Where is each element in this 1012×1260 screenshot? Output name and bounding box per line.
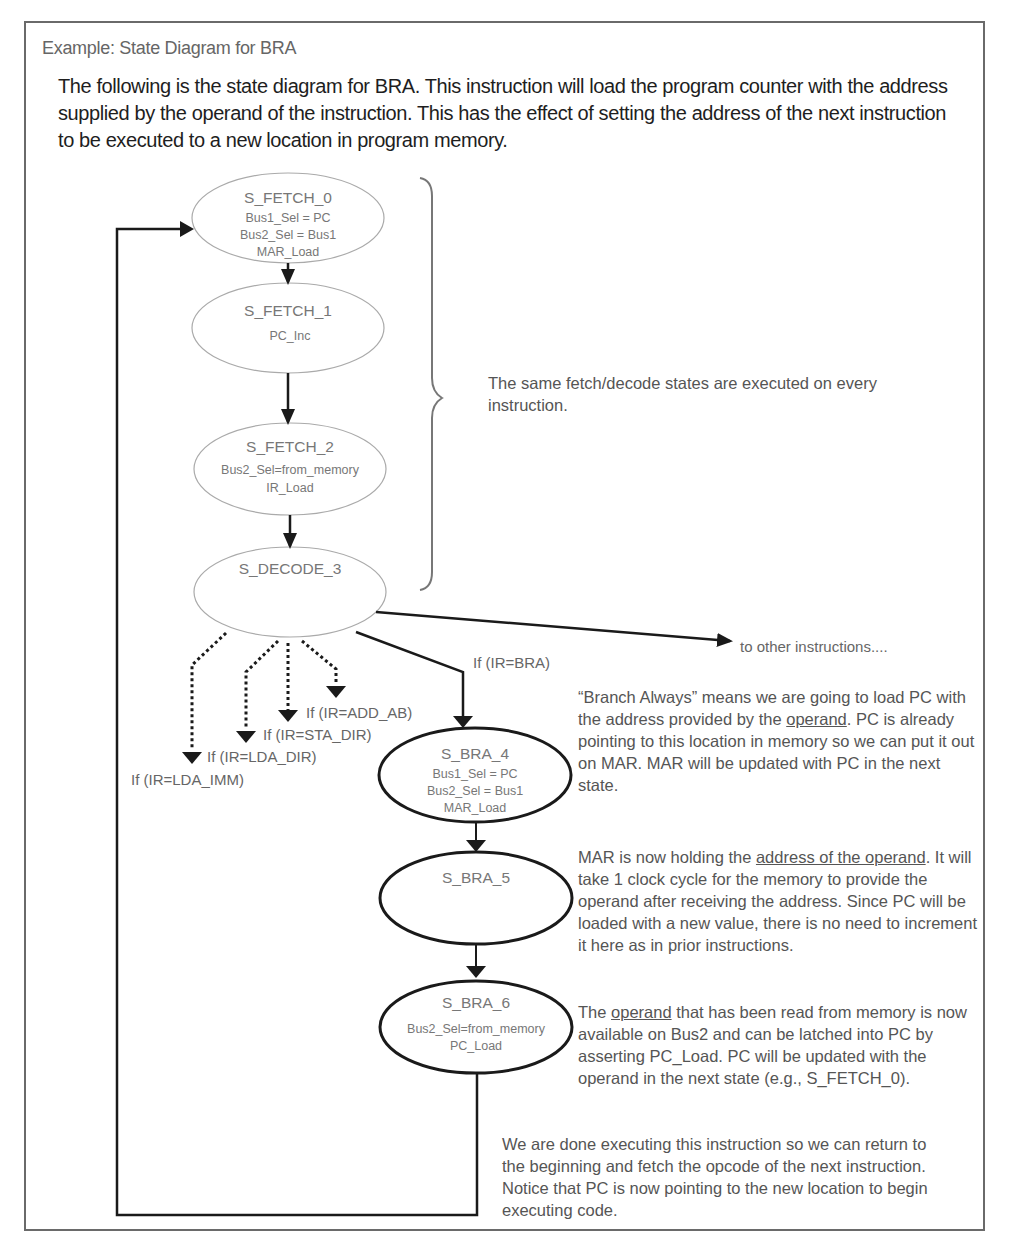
state-s-fetch-0: S_FETCH_0 Bus1_Sel = PC Bus2_Sel = Bus1 …	[192, 173, 384, 263]
svg-text:Bus2_Sel = Bus1: Bus2_Sel = Bus1	[427, 784, 523, 798]
label-lda-dir: If (IR=LDA_DIR)	[207, 748, 317, 765]
brace-icon	[420, 178, 442, 590]
arrowhead-lda-imm	[182, 752, 202, 764]
note-bra6: The operand that has been read from memo…	[578, 1001, 978, 1089]
svg-text:S_FETCH_2: S_FETCH_2	[246, 438, 334, 455]
arrowhead-fetch0	[180, 221, 194, 237]
state-s-fetch-1: S_FETCH_1 PC_Inc	[192, 283, 384, 373]
state-s-bra-4: S_BRA_4 Bus1_Sel = PC Bus2_Sel = Bus1 MA…	[379, 728, 571, 822]
arrowhead-lda-dir	[236, 731, 256, 743]
svg-text:Bus2_Sel=from_memory: Bus2_Sel=from_memory	[221, 463, 360, 477]
svg-text:Bus1_Sel = PC: Bus1_Sel = PC	[432, 767, 517, 781]
loop-back-line	[117, 229, 477, 1215]
svg-text:S_BRA_6: S_BRA_6	[442, 994, 510, 1011]
svg-text:PC_Inc: PC_Inc	[270, 329, 311, 343]
svg-text:S_BRA_4: S_BRA_4	[441, 745, 509, 762]
svg-text:S_FETCH_1: S_FETCH_1	[244, 302, 332, 319]
svg-text:MAR_Load: MAR_Load	[444, 801, 507, 815]
svg-text:IR_Load: IR_Load	[266, 481, 313, 495]
state-s-bra-6: S_BRA_6 Bus2_Sel=from_memory PC_Load	[380, 981, 572, 1073]
state-s-decode-3: S_DECODE_3	[194, 547, 386, 637]
state-s-fetch-2: S_FETCH_2 Bus2_Sel=from_memory IR_Load	[194, 423, 386, 515]
arrowhead-add-ab	[326, 686, 346, 698]
state-s-bra-5: S_BRA_5	[380, 852, 572, 944]
svg-text:S_DECODE_3: S_DECODE_3	[239, 560, 342, 577]
branch-lda-imm	[192, 633, 226, 750]
label-lda-imm: If (IR=LDA_IMM)	[131, 771, 244, 788]
label-sta-dir: If (IR=STA_DIR)	[263, 726, 372, 743]
label-bra: If (IR=BRA)	[473, 654, 550, 671]
branch-lda-dir	[246, 641, 278, 728]
note-return: We are done executing this instruction s…	[502, 1133, 952, 1221]
svg-text:Bus1_Sel = PC: Bus1_Sel = PC	[245, 211, 330, 225]
svg-text:PC_Load: PC_Load	[450, 1039, 502, 1053]
note-bra4: “Branch Always” means we are going to lo…	[578, 686, 978, 796]
state-name: S_FETCH_0	[244, 189, 332, 206]
arrowhead-sta-dir	[278, 710, 298, 722]
arrow-bra5-bra6	[466, 966, 486, 978]
label-add-ab: If (IR=ADD_AB)	[306, 704, 412, 721]
svg-text:S_BRA_5: S_BRA_5	[442, 869, 510, 886]
svg-text:Bus2_Sel = Bus1: Bus2_Sel = Bus1	[240, 228, 336, 242]
arrow-to-other-instructions	[376, 612, 730, 641]
svg-text:Bus2_Sel=from_memory: Bus2_Sel=from_memory	[407, 1022, 546, 1036]
branch-add-ab	[302, 641, 336, 682]
note-fetch-decode: The same fetch/decode states are execute…	[488, 372, 928, 416]
svg-text:MAR_Load: MAR_Load	[257, 245, 320, 259]
note-bra5: MAR is now holding the address of the op…	[578, 846, 978, 956]
label-other-instructions: to other instructions....	[740, 638, 888, 655]
arrow-bra4-bra5	[466, 840, 486, 852]
